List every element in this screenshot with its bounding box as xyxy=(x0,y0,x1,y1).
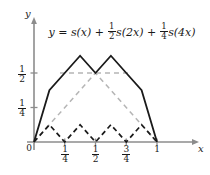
formula-plus-2: + xyxy=(147,26,156,39)
x-ticklabel-one: 1 xyxy=(150,144,164,154)
fraction-numerator: 1 xyxy=(108,22,115,31)
formula-term-3: s(4x) xyxy=(168,26,195,39)
x-axis-label: x xyxy=(198,143,204,154)
graph-figure: y = s(x) + 12s(2x) + 14s(4x) y x 0 12 14… xyxy=(0,0,210,175)
fraction-denominator: 2 xyxy=(108,31,115,41)
fraction-denominator: 2 xyxy=(92,154,100,164)
formula-fraction-half: 12 xyxy=(108,22,115,40)
fraction-denominator: 4 xyxy=(160,31,167,41)
fraction-numerator: 1 xyxy=(61,145,69,154)
formula-equals: = xyxy=(58,26,67,39)
formula-term-2: s(2x) xyxy=(116,26,143,39)
fraction-numerator: 1 xyxy=(18,99,26,108)
fraction-denominator: 2 xyxy=(18,74,26,84)
fraction-denominator: 4 xyxy=(61,154,69,164)
formula-plus-1: + xyxy=(95,26,104,39)
y-ticklabel-quarter: 14 xyxy=(15,99,29,118)
x-ticklabel-quarter: 14 xyxy=(58,145,72,164)
origin-label: 0 xyxy=(24,143,34,153)
fraction-numerator: 1 xyxy=(18,65,26,74)
fraction-three-quarters: 34 xyxy=(122,145,130,164)
formula-y: y xyxy=(48,26,54,39)
formula-title: y = s(x) + 12s(2x) + 14s(4x) xyxy=(42,22,202,40)
fraction-denominator: 4 xyxy=(18,108,26,118)
y-axis-label: y xyxy=(25,8,31,19)
fraction-numerator: 3 xyxy=(122,145,130,154)
fraction-denominator: 4 xyxy=(122,154,130,164)
formula-term-1: s(x) xyxy=(71,26,91,39)
fraction-one-quarter: 14 xyxy=(18,99,26,118)
fraction-one-quarter: 14 xyxy=(61,145,69,164)
y-axis-arrowhead xyxy=(31,17,37,24)
y-ticklabel-half: 12 xyxy=(15,65,29,84)
curve-s-of-x xyxy=(34,73,157,142)
fraction-numerator: 1 xyxy=(160,22,167,31)
fraction-one-half: 12 xyxy=(18,65,26,84)
formula-fraction-quarter: 14 xyxy=(160,22,167,40)
fraction-one-half: 12 xyxy=(92,145,100,164)
fraction-numerator: 1 xyxy=(92,145,100,154)
x-ticklabel-half: 12 xyxy=(89,145,103,164)
x-ticklabel-three-quarter: 34 xyxy=(119,145,133,164)
